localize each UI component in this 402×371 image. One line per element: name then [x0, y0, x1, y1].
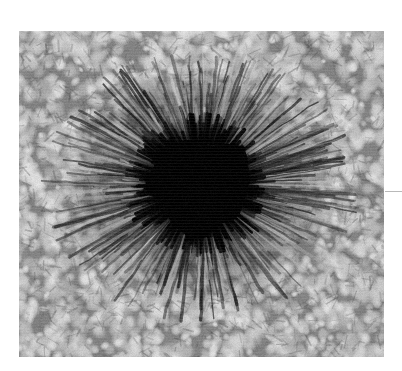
right-margin-tick-mark — [385, 191, 402, 192]
sunspot-image-plate — [19, 31, 384, 357]
sunspot-canvas — [19, 31, 384, 357]
caption-zone — [0, 357, 402, 371]
figure-page — [0, 0, 402, 371]
